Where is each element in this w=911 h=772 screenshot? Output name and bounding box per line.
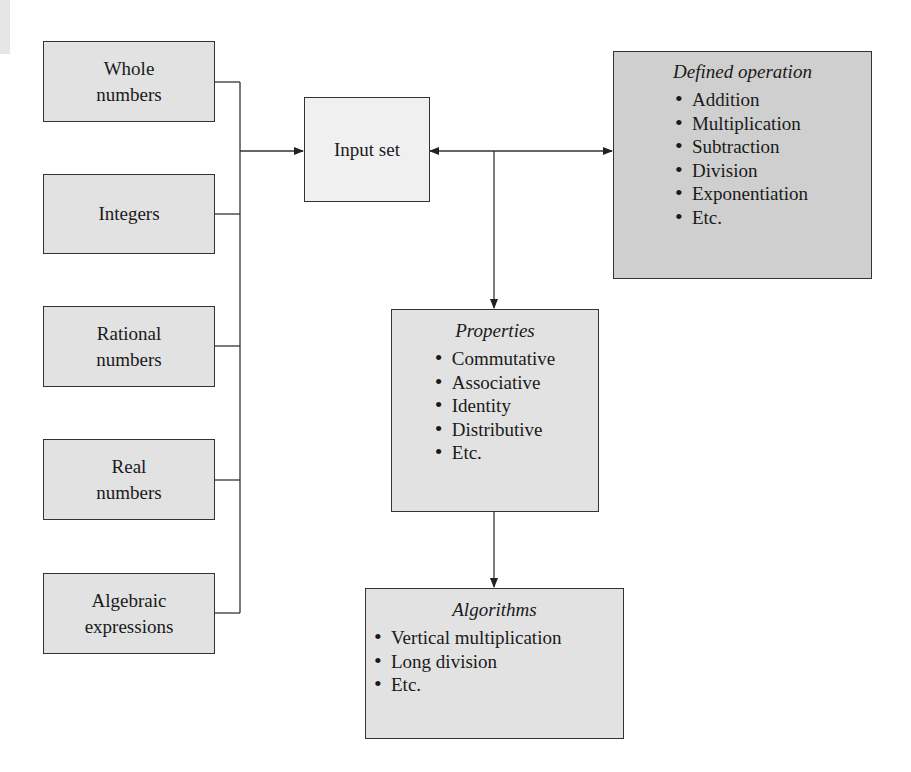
list-item: Distributive (435, 418, 555, 442)
algorithms-list: Vertical multiplication Long division Et… (374, 626, 561, 697)
source-label: Algebraic (92, 588, 167, 614)
list-item: Subtraction (675, 135, 808, 159)
list-item: Multiplication (675, 112, 808, 136)
source-box-integers: Integers (43, 174, 215, 254)
list-item: Etc. (374, 673, 561, 697)
source-label: expressions (85, 614, 174, 640)
source-box-real-numbers: Real numbers (43, 439, 215, 520)
source-label: Whole (104, 56, 155, 82)
list-item: Division (675, 159, 808, 183)
properties-title: Properties (455, 318, 535, 344)
input-set-label: Input set (334, 137, 400, 163)
list-item: Etc. (435, 441, 555, 465)
source-label: Rational (97, 321, 161, 347)
source-label: numbers (96, 82, 161, 108)
list-item: Identity (435, 394, 555, 418)
source-label: numbers (96, 480, 161, 506)
algorithms-box: Algorithms Vertical multiplication Long … (365, 588, 624, 739)
defined-operation-list: Addition Multiplication Subtraction Divi… (675, 88, 808, 229)
list-item: Associative (435, 371, 555, 395)
list-item: Etc. (675, 206, 808, 230)
properties-box: Properties Commutative Associative Ident… (391, 309, 599, 512)
source-box-rational-numbers: Rational numbers (43, 306, 215, 387)
algorithms-title: Algorithms (452, 597, 536, 623)
source-label: numbers (96, 347, 161, 373)
defined-operation-box: Defined operation Addition Multiplicatio… (613, 51, 872, 279)
input-set-box: Input set (304, 97, 430, 202)
source-box-whole-numbers: Whole numbers (43, 41, 215, 122)
list-item: Exponentiation (675, 182, 808, 206)
defined-operation-title: Defined operation (673, 59, 812, 85)
list-item: Addition (675, 88, 808, 112)
source-label: Real (112, 454, 147, 480)
source-box-algebraic-expressions: Algebraic expressions (43, 573, 215, 654)
source-label: Integers (98, 201, 159, 227)
list-item: Vertical multiplication (374, 626, 561, 650)
list-item: Long division (374, 650, 561, 674)
properties-list: Commutative Associative Identity Distrib… (435, 347, 555, 465)
list-item: Commutative (435, 347, 555, 371)
